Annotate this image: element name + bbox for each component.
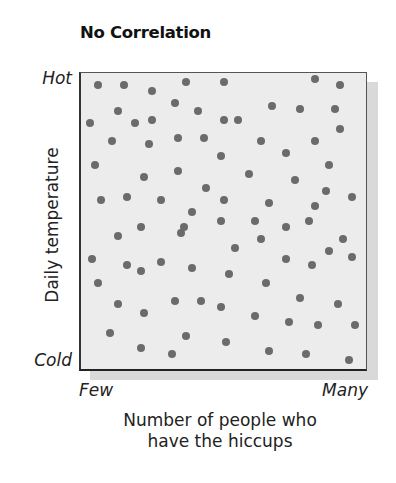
data-point — [137, 267, 145, 275]
data-point — [251, 312, 259, 320]
data-point — [245, 170, 253, 178]
data-point — [308, 261, 316, 269]
data-point — [325, 161, 333, 169]
data-point — [157, 258, 165, 266]
data-point — [348, 253, 356, 261]
data-point — [265, 199, 273, 207]
data-point — [114, 300, 122, 308]
data-point — [325, 247, 333, 255]
data-point — [351, 321, 359, 329]
data-point — [145, 140, 153, 148]
data-point — [123, 193, 131, 201]
data-point — [148, 87, 156, 95]
data-point — [334, 300, 342, 308]
data-point — [282, 149, 290, 157]
data-point — [182, 78, 190, 86]
data-point — [336, 125, 344, 133]
data-point — [257, 235, 265, 243]
data-point — [188, 264, 196, 272]
y-axis-max-label: Hot — [42, 68, 72, 88]
data-point — [314, 321, 322, 329]
data-point — [220, 116, 228, 124]
data-point — [171, 297, 179, 305]
data-point — [137, 344, 145, 352]
data-point — [331, 105, 339, 113]
data-point — [291, 176, 299, 184]
chart-title: No Correlation — [80, 23, 211, 42]
data-point — [188, 208, 196, 216]
data-point — [322, 187, 330, 195]
data-point — [231, 244, 239, 252]
data-point — [197, 297, 205, 305]
data-point — [336, 81, 344, 89]
data-point — [217, 217, 225, 225]
data-point — [296, 294, 304, 302]
data-point — [140, 309, 148, 317]
data-point — [108, 137, 116, 145]
data-point — [285, 318, 293, 326]
data-point — [97, 196, 105, 204]
data-point — [251, 217, 259, 225]
data-point — [106, 329, 114, 337]
data-point — [86, 119, 94, 127]
data-point — [222, 338, 230, 346]
x-axis-title: Number of people who have the hiccups — [100, 410, 340, 452]
data-point — [282, 255, 290, 263]
data-point — [123, 261, 131, 269]
x-axis-max-label: Many — [322, 380, 368, 400]
data-point — [296, 105, 304, 113]
data-point — [202, 184, 210, 192]
data-point — [200, 134, 208, 142]
data-point — [177, 229, 185, 237]
data-point — [345, 356, 353, 364]
data-point — [311, 137, 319, 145]
data-point — [262, 279, 270, 287]
plot-area — [79, 72, 367, 371]
data-point — [171, 99, 179, 107]
data-point — [174, 167, 182, 175]
data-point — [257, 137, 265, 145]
data-point — [194, 107, 202, 115]
data-point — [268, 102, 276, 110]
data-point — [265, 347, 273, 355]
data-point — [131, 119, 139, 127]
data-point — [174, 134, 182, 142]
data-point — [114, 232, 122, 240]
data-point — [94, 81, 102, 89]
data-point — [91, 161, 99, 169]
data-point — [137, 223, 145, 231]
data-point — [168, 350, 176, 358]
data-point — [88, 255, 96, 263]
data-point — [234, 116, 242, 124]
data-point — [94, 279, 102, 287]
data-point — [311, 75, 319, 83]
data-point — [348, 193, 356, 201]
y-axis-min-label: Cold — [34, 350, 72, 370]
data-point — [220, 196, 228, 204]
data-point — [217, 303, 225, 311]
data-point — [302, 350, 310, 358]
data-point — [225, 270, 233, 278]
x-axis-min-label: Few — [79, 380, 113, 400]
data-point — [114, 107, 122, 115]
data-point — [305, 217, 313, 225]
data-point — [120, 81, 128, 89]
data-point — [182, 332, 190, 340]
data-point — [148, 116, 156, 124]
data-point — [157, 196, 165, 204]
data-point — [339, 235, 347, 243]
data-point — [140, 173, 148, 181]
data-point — [220, 78, 228, 86]
data-point — [282, 223, 290, 231]
data-point — [311, 202, 319, 210]
y-axis-title: Daily temperature — [42, 147, 62, 302]
data-point — [217, 152, 225, 160]
